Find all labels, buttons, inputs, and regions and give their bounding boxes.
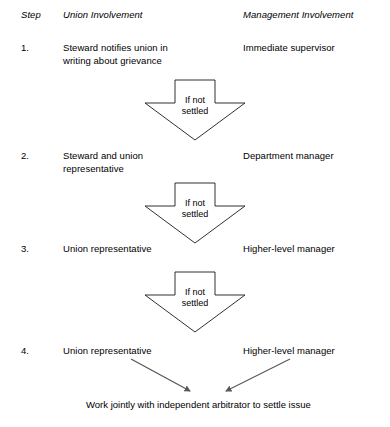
step-management-text-2: Department manager bbox=[243, 150, 334, 163]
if-not-settled-label-2: If not settled bbox=[165, 198, 225, 220]
step-number-2: 2. bbox=[21, 150, 29, 163]
column-header-step: Step bbox=[21, 9, 41, 22]
step-number-3: 3. bbox=[21, 243, 29, 256]
if-not-settled-label-1: If not settled bbox=[165, 95, 225, 117]
outcome-text: Work jointly with independent arbitrator… bbox=[86, 399, 311, 410]
step-management-text-4: Higher-level manager bbox=[243, 345, 335, 358]
column-header-union-involvement: Union Involvement bbox=[63, 9, 143, 22]
step-number-1: 1. bbox=[21, 42, 29, 55]
column-header-management-involvement: Management Involvement bbox=[243, 9, 353, 22]
step-union-text-3: Union representative bbox=[63, 243, 152, 256]
step-union-text-1: Steward notifies union in writing about … bbox=[63, 42, 168, 67]
union-to-outcome-arrow bbox=[131, 359, 190, 391]
if-not-settled-label-3: If not settled bbox=[165, 287, 225, 309]
step-number-4: 4. bbox=[21, 345, 29, 358]
step-union-text-2: Steward and union representative bbox=[63, 150, 143, 175]
step-management-text-3: Higher-level manager bbox=[243, 243, 335, 256]
grievance-procedure-diagram: Step Union Involvement Management Involv… bbox=[0, 0, 390, 427]
step-union-text-4: Union representative bbox=[63, 345, 152, 358]
management-to-outcome-arrow bbox=[226, 359, 290, 391]
step-management-text-1: Immediate supervisor bbox=[243, 42, 335, 55]
